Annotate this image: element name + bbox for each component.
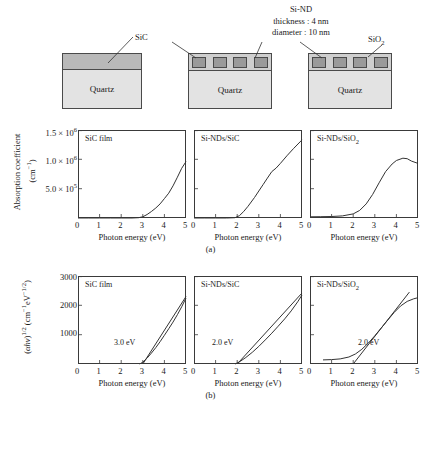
plot-b-sic-film[interactable]: SiC film 3.0 eV 0 1 2 3 4 5 <box>78 276 186 364</box>
x-axis-label: Photon energy (eV) <box>310 232 418 242</box>
plot-curve-and-ticks <box>310 276 418 364</box>
xtick-label: 1 <box>97 366 101 376</box>
xtick-label: 5 <box>299 220 303 230</box>
xtick-label: 2 <box>350 220 354 230</box>
xtick-label: 4 <box>277 220 281 230</box>
schematic-leader-lines <box>0 0 421 118</box>
xtick-label: 2 <box>234 220 238 230</box>
plot-a-si-nds-sio2[interactable]: Si-NDs/SiO2 0 1 2 3 4 5 Photon energy (e <box>310 130 418 218</box>
xtick-label: 2 <box>350 366 354 376</box>
xtick-label: 0 <box>307 366 311 376</box>
plot-curve-and-ticks <box>194 276 302 364</box>
xtick-label: 3 <box>256 366 260 376</box>
xtick-label: 0 <box>191 220 195 230</box>
xtick-label: 4 <box>393 220 397 230</box>
ytick-label-b-2: 2000 <box>43 300 77 310</box>
xtick-label: 1 <box>213 220 217 230</box>
plot-a-sic-film[interactable]: SiC film 0 1 2 3 4 5 Photon energy (eV) <box>78 130 186 218</box>
x-axis-label: Photon energy (eV) <box>194 232 302 242</box>
xtick-label: 4 <box>277 366 281 376</box>
x-axis-label: Photon energy (eV) <box>310 378 418 388</box>
caption-b: (b) <box>0 390 421 400</box>
x-axis-label: Photon energy (eV) <box>194 378 302 388</box>
xtick-label: 2 <box>118 366 122 376</box>
ytick-label-a-2: 1.0 × 106 <box>33 154 77 166</box>
xtick-label: 1 <box>329 220 333 230</box>
xtick-label: 5 <box>183 220 187 230</box>
plot-b-si-nds-sio2[interactable]: Si-NDs/SiO2 2.0 eV 0 1 2 3 4 5 <box>310 276 418 364</box>
xtick-label: 5 <box>415 366 419 376</box>
plot-curve-and-ticks <box>194 130 302 218</box>
y-axis-label-b: (αhν)1/2 (cm−1eV−1/2) <box>20 258 32 376</box>
figure-root: Si-ND thickness : 4 nm diameter : 10 nm … <box>0 0 421 455</box>
schematic-row: Si-ND thickness : 4 nm diameter : 10 nm … <box>0 0 421 118</box>
xtick-label: 3 <box>372 220 376 230</box>
xtick-label: 3 <box>256 220 260 230</box>
y-axis-label-a: Absorption coefficient <box>12 122 22 222</box>
caption-a: (a) <box>0 244 421 254</box>
xtick-label: 5 <box>299 366 303 376</box>
panel-row-a: Absorption coefficient (cm−1) 1.5 × 106 … <box>0 122 421 257</box>
xtick-label: 4 <box>393 366 397 376</box>
plot-curve-and-ticks <box>78 130 186 218</box>
xtick-label: 2 <box>118 220 122 230</box>
ytick-label-b-1: 1000 <box>43 328 77 338</box>
x-axis-label: Photon energy (eV) <box>78 232 186 242</box>
xtick-label: 5 <box>183 366 187 376</box>
xtick-label: 1 <box>329 366 333 376</box>
xtick-label: 4 <box>161 220 165 230</box>
plot-a-si-nds-sic[interactable]: Si-NDs/SiC 0 1 2 3 4 5 Photon energy (eV <box>194 130 302 218</box>
xtick-label: 1 <box>97 220 101 230</box>
plot-curve-and-ticks <box>310 130 418 218</box>
xtick-label: 3 <box>372 366 376 376</box>
xtick-label: 5 <box>415 220 419 230</box>
xtick-label: 0 <box>191 366 195 376</box>
ytick-label-a-1: 5.0 × 105 <box>33 182 77 194</box>
plot-curve-and-ticks <box>78 276 186 364</box>
xtick-label: 0 <box>75 220 79 230</box>
xtick-label: 4 <box>161 366 165 376</box>
x-axis-label: Photon energy (eV) <box>78 378 186 388</box>
xtick-label: 3 <box>140 220 144 230</box>
xtick-label: 0 <box>75 366 79 376</box>
xtick-label: 3 <box>140 366 144 376</box>
ytick-label-a-3: 1.5 × 106 <box>33 126 77 138</box>
xtick-label: 0 <box>307 220 311 230</box>
ytick-label-b-3: 3000 <box>43 272 77 282</box>
panel-row-b: (αhν)1/2 (cm−1eV−1/2) 3000 2000 1000 SiC… <box>0 268 421 403</box>
xtick-label: 1 <box>213 366 217 376</box>
xtick-label: 2 <box>234 366 238 376</box>
plot-b-si-nds-sic[interactable]: Si-NDs/SiC 2.0 eV 0 1 2 3 4 5 <box>194 276 302 364</box>
